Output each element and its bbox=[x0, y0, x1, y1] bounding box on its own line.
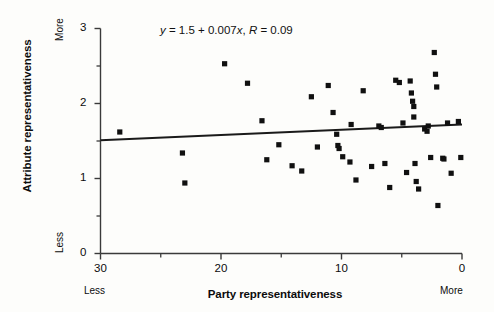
data-point bbox=[412, 161, 417, 166]
y-tick-label: 1 bbox=[65, 171, 87, 183]
data-point bbox=[245, 81, 250, 86]
data-point bbox=[336, 146, 341, 151]
data-point bbox=[409, 90, 414, 95]
data-point bbox=[361, 88, 366, 93]
data-point bbox=[276, 142, 281, 147]
data-point bbox=[428, 155, 433, 160]
data-point bbox=[456, 119, 461, 124]
data-point bbox=[449, 171, 454, 176]
y-tick-label: 3 bbox=[65, 21, 87, 33]
data-point bbox=[458, 155, 463, 160]
data-point bbox=[408, 78, 413, 83]
data-point bbox=[259, 118, 264, 123]
x-tick-label: 0 bbox=[449, 262, 475, 274]
data-point bbox=[445, 120, 450, 125]
data-point bbox=[340, 154, 345, 159]
data-point bbox=[315, 144, 320, 149]
data-point bbox=[289, 163, 294, 168]
data-point bbox=[309, 94, 314, 99]
data-point bbox=[264, 157, 269, 162]
data-point bbox=[400, 120, 405, 125]
data-point bbox=[435, 203, 440, 208]
data-point bbox=[432, 50, 437, 55]
data-point bbox=[334, 132, 339, 137]
data-point bbox=[426, 123, 431, 128]
data-point bbox=[330, 110, 335, 115]
x-tick-label: 30 bbox=[88, 262, 114, 274]
data-point bbox=[222, 61, 227, 66]
x-tick-label: 10 bbox=[329, 262, 355, 274]
data-point bbox=[379, 125, 384, 130]
data-point bbox=[397, 80, 402, 85]
data-point bbox=[410, 99, 415, 104]
data-point bbox=[387, 185, 392, 190]
data-point bbox=[349, 122, 354, 127]
x-tick-label: 20 bbox=[208, 262, 234, 274]
data-point bbox=[369, 164, 374, 169]
data-point bbox=[182, 180, 187, 185]
data-point bbox=[434, 84, 439, 89]
data-point bbox=[404, 170, 409, 175]
y-tick-label: 2 bbox=[65, 96, 87, 108]
data-point bbox=[180, 150, 185, 155]
data-point bbox=[326, 83, 331, 88]
data-point bbox=[424, 129, 429, 134]
data-point bbox=[353, 177, 358, 182]
data-point bbox=[411, 114, 416, 119]
data-point bbox=[441, 156, 446, 161]
data-point bbox=[416, 186, 421, 191]
data-point bbox=[411, 104, 416, 109]
data-point bbox=[299, 168, 304, 173]
data-point bbox=[433, 72, 438, 77]
regression-line bbox=[101, 125, 463, 141]
data-point bbox=[347, 159, 352, 164]
data-point bbox=[117, 129, 122, 134]
data-point bbox=[382, 161, 387, 166]
data-point bbox=[414, 179, 419, 184]
y-tick-label: 0 bbox=[65, 246, 87, 258]
scatter-plot-figure: Attribute representativeness More Less P… bbox=[0, 0, 494, 312]
plot-canvas bbox=[0, 0, 494, 312]
